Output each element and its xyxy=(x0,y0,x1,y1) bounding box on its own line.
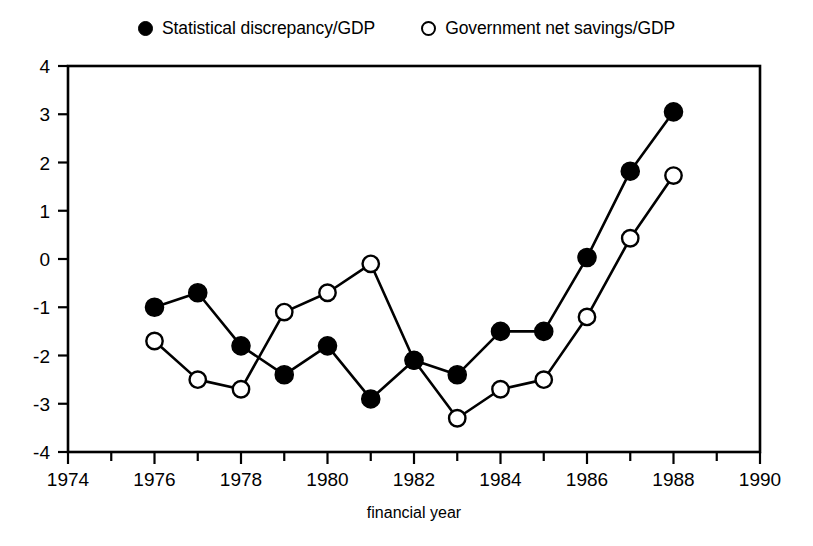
x-tick-label: 1976 xyxy=(133,469,175,490)
y-tick-label: 1 xyxy=(39,201,50,222)
data-point-filled xyxy=(232,337,250,355)
y-axis-tick-labels: 43210-1-2-3-4 xyxy=(33,56,50,463)
data-point-filled xyxy=(621,162,639,180)
y-tick-label: 4 xyxy=(39,56,50,77)
data-point-open xyxy=(536,371,552,387)
x-axis-title: financial year xyxy=(367,504,462,521)
y-tick-label: 3 xyxy=(39,104,50,125)
data-point-open xyxy=(622,230,638,246)
data-point-filled xyxy=(535,322,553,340)
data-point-open xyxy=(146,333,162,349)
series-lines xyxy=(155,112,674,418)
x-tick-label: 1984 xyxy=(479,469,522,490)
y-tick-label: -2 xyxy=(33,346,50,367)
x-tick-label: 1980 xyxy=(306,469,348,490)
x-tick-label: 1982 xyxy=(393,469,435,490)
data-point-open xyxy=(319,285,335,301)
plot-frame xyxy=(68,66,760,452)
data-point-filled xyxy=(492,322,510,340)
y-tick-label: -1 xyxy=(33,297,50,318)
x-axis-tick-labels: 197419761978198019821984198619881990 xyxy=(47,469,781,490)
x-tick-label: 1974 xyxy=(47,469,90,490)
data-point-open xyxy=(449,410,465,426)
y-axis-ticks xyxy=(58,66,68,452)
data-point-filled xyxy=(448,366,466,384)
data-point-filled xyxy=(578,249,596,267)
x-tick-label: 1988 xyxy=(652,469,694,490)
data-point-filled xyxy=(362,390,380,408)
x-tick-label: 1990 xyxy=(739,469,781,490)
chart-figure: Statistical discrepancy/GDP Government n… xyxy=(0,0,813,546)
data-point-filled xyxy=(665,103,683,121)
data-point-filled xyxy=(319,337,337,355)
data-point-filled xyxy=(146,298,164,316)
data-point-filled xyxy=(189,284,207,302)
data-point-open xyxy=(665,167,681,183)
y-tick-label: -3 xyxy=(33,394,50,415)
data-point-open xyxy=(233,381,249,397)
data-point-filled xyxy=(405,351,423,369)
data-point-open xyxy=(492,381,508,397)
plot-area: 197419761978198019821984198619881990 432… xyxy=(0,0,813,546)
data-point-open xyxy=(579,309,595,325)
x-axis-ticks xyxy=(68,452,760,464)
x-tick-label: 1978 xyxy=(220,469,262,490)
series-line-2 xyxy=(155,176,674,419)
x-tick-label: 1986 xyxy=(566,469,608,490)
data-point-open xyxy=(363,256,379,272)
y-tick-label: 2 xyxy=(39,153,50,174)
y-tick-label: -4 xyxy=(33,442,50,463)
data-point-filled xyxy=(275,366,293,384)
data-point-open xyxy=(190,371,206,387)
y-tick-label: 0 xyxy=(39,249,50,270)
data-point-open xyxy=(276,304,292,320)
series-markers xyxy=(146,103,683,427)
